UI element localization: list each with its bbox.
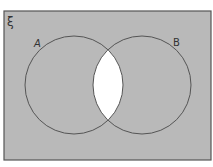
universal-set-symbol: ξ xyxy=(7,15,14,29)
set-a-label: A xyxy=(33,38,41,49)
venn-diagram: ξ A B xyxy=(0,0,213,167)
set-b-label: B xyxy=(173,37,180,48)
